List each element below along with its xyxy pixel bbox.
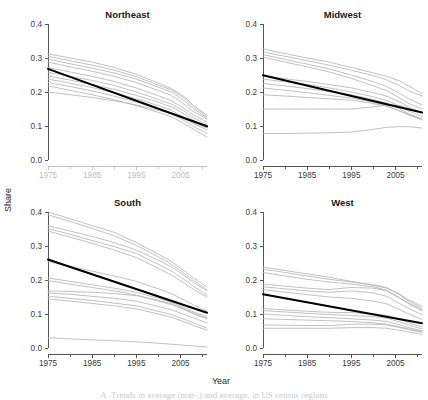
x-tick-label: 1985 (83, 359, 102, 368)
y-tick-label: 0.3 (31, 242, 43, 251)
y-axis-title: Share (3, 188, 13, 212)
y-tick-label: 0.4 (31, 208, 43, 217)
x-tick-label: 1995 (342, 359, 361, 368)
x-tick-label: 2005 (171, 171, 190, 180)
y-tick-label: 0.1 (31, 122, 43, 131)
y-tick-label: 0.1 (246, 310, 258, 319)
x-tick-label: 1975 (254, 359, 273, 368)
x-tick-label: 2005 (386, 171, 405, 180)
x-tick-label: 1975 (254, 171, 273, 180)
panel-title: Midwest (324, 9, 362, 20)
y-tick-label: 0.3 (246, 242, 258, 251)
y-tick-label: 0.1 (246, 122, 258, 131)
panel-title: South (114, 197, 141, 208)
x-tick-label: 1995 (127, 359, 146, 368)
figure-background (0, 0, 428, 400)
x-axis-title: Year (212, 376, 230, 386)
y-tick-label: 0.2 (246, 276, 258, 285)
y-tick-label: 0.0 (246, 156, 258, 165)
x-tick-label: 1995 (127, 171, 146, 180)
x-tick-label: 1985 (298, 359, 317, 368)
y-tick-label: 0.0 (246, 344, 258, 353)
y-tick-label: 0.4 (246, 20, 258, 29)
x-tick-label: 1975 (39, 359, 58, 368)
x-tick-label: 2005 (386, 359, 405, 368)
x-tick-label: 1985 (83, 171, 102, 180)
x-tick-label: 1985 (298, 171, 317, 180)
figure-container: 0.00.10.20.30.41975198519952005Northeast… (0, 0, 428, 400)
y-tick-label: 0.1 (31, 310, 43, 319)
y-tick-label: 0.4 (31, 20, 43, 29)
y-tick-label: 0.2 (31, 276, 43, 285)
y-tick-label: 0.3 (31, 54, 43, 63)
y-tick-label: 0.2 (31, 88, 43, 97)
x-tick-label: 1975 (39, 171, 58, 180)
y-tick-label: 0.3 (246, 54, 258, 63)
multi-panel-line-chart: 0.00.10.20.30.41975198519952005Northeast… (0, 0, 428, 400)
y-tick-label: 0.2 (246, 88, 258, 97)
figure-caption: A. Trends in average (non-,) and average… (100, 390, 328, 400)
y-tick-label: 0.0 (31, 344, 43, 353)
x-tick-label: 1995 (342, 171, 361, 180)
panel-title: West (331, 197, 354, 208)
y-tick-label: 0.0 (31, 156, 43, 165)
panel-title: Northeast (105, 9, 150, 20)
x-tick-label: 2005 (171, 359, 190, 368)
y-tick-label: 0.4 (246, 208, 258, 217)
